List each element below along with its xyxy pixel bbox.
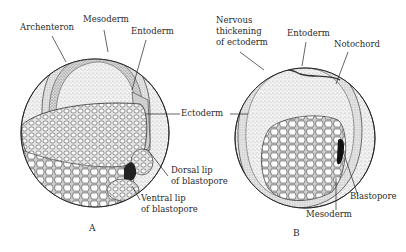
label-nervous-line1: Nervous [216, 15, 252, 26]
label-ventral-lip-line2: of blastopore [141, 204, 198, 215]
label-dorsal-lip-line1: Dorsal lip [171, 165, 213, 176]
panel-caption-b: B [293, 228, 300, 238]
label-mesoderm-b: Mesoderm [306, 209, 352, 220]
label-dorsal-lip-line2: of blastopore [171, 176, 228, 187]
panel-caption-a: A [89, 223, 96, 233]
label-blastopore: Blastopore [350, 191, 397, 202]
label-entoderm-b: Entoderm [287, 28, 330, 39]
label-ventral-lip-line1: Ventral lip [141, 193, 186, 204]
label-archenteron: Archenteron [20, 22, 74, 33]
embryo-gastrulation-figure: Archenteron Mesoderm Entoderm Ectoderm D… [0, 0, 406, 252]
embryo-a [21, 48, 169, 208]
label-nervous-line3: of ectoderm [216, 37, 268, 48]
label-ectoderm: Ectoderm [181, 108, 223, 119]
label-notochord: Notochord [334, 39, 380, 50]
label-nervous-line2: thickening [216, 26, 262, 37]
embryo-b [235, 60, 375, 208]
label-mesoderm-a: Mesoderm [83, 14, 129, 25]
label-entoderm-a: Entoderm [131, 26, 174, 37]
